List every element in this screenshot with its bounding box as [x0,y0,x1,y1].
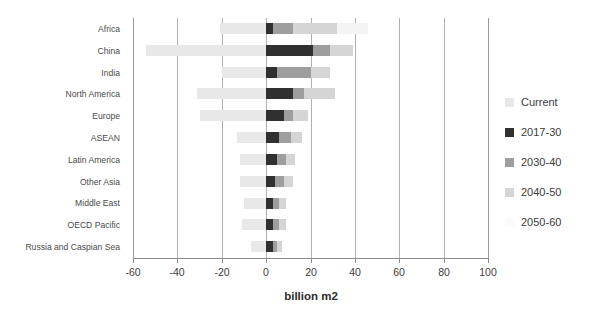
bar-segment [266,132,279,143]
bar-row [133,18,488,40]
bar-segment [237,132,266,143]
bar-segment [279,219,286,230]
bar-row [133,62,488,84]
bar-row [133,149,488,171]
bar-segment [244,198,266,209]
bar-segment [240,176,267,187]
y-axis-label-india: India [101,67,120,79]
x-tick-40 [355,258,356,263]
bar-segment [330,45,352,56]
bar-segment [220,23,267,34]
bar-segment [293,88,304,99]
bar-row [133,171,488,193]
y-axis-label-china: China [98,45,120,57]
y-axis-label-asean: ASEAN [91,132,120,144]
legend-label: 2040-50 [521,186,561,198]
y-axis-label-latin-america: Latin America [68,154,120,166]
bar-segment [286,154,295,165]
gridline-100 [488,18,489,258]
x-tick-label--60: -60 [113,266,153,278]
bar-segment [293,110,309,121]
bar-segment [279,132,290,143]
bar-segment [277,67,310,78]
bar-segment [293,23,337,34]
bar-row [133,127,488,149]
y-axis-label-north-america: North America [66,88,120,100]
bar-segment [337,23,368,34]
bar-segment [266,88,293,99]
x-tick--40 [177,258,178,263]
bar-segment [266,23,273,34]
x-tick-label-100: 100 [468,266,508,278]
bar-row [133,105,488,127]
bar-segment [146,45,266,56]
chart-legend: Current2017-302030-402040-502050-60 [505,95,601,245]
bar-row [133,193,488,215]
bar-chart: AfricaChinaIndiaNorth AmericaEuropeASEAN… [0,0,606,324]
bar-row [133,214,488,236]
x-tick-60 [399,258,400,263]
bar-segment [200,110,267,121]
legend-swatch-icon [505,128,514,137]
y-axis-label-middle-east: Middle East [75,197,120,209]
x-tick-80 [444,258,445,263]
bar-segment [275,176,284,187]
x-tick--20 [222,258,223,263]
legend-label: 2050-60 [521,216,561,228]
legend-item-2017-30[interactable]: 2017-30 [505,125,561,139]
bar-row [133,40,488,62]
y-axis-label-other-asia: Other Asia [80,176,120,188]
bar-segment [284,110,293,121]
bar-segment [266,241,273,252]
legend-swatch-icon [505,188,514,197]
x-tick-label-0: 0 [246,266,286,278]
bar-row [133,236,488,258]
y-axis-category-labels: AfricaChinaIndiaNorth AmericaEuropeASEAN… [0,18,126,258]
y-axis-label-oecd-pacific: OECD Pacific [67,219,120,231]
bar-segment [266,198,273,209]
bar-segment [240,154,267,165]
bar-segment [222,67,266,78]
legend-label: Current [521,96,558,108]
legend-item-2050-60[interactable]: 2050-60 [505,215,561,229]
x-tick-20 [311,258,312,263]
bar-segment [266,110,284,121]
x-tick-label-40: 40 [335,266,375,278]
bar-segment [291,132,302,143]
bar-segment [277,241,281,252]
legend-label: 2017-30 [521,126,561,138]
x-tick-label--20: -20 [202,266,242,278]
bar-segment [311,67,331,78]
y-axis-label-africa: Africa [98,23,120,35]
y-axis-label-russia-and-caspian-sea: Russia and Caspian Sea [25,241,120,253]
legend-item-2040-50[interactable]: 2040-50 [505,185,561,199]
legend-swatch-icon [505,218,514,227]
bar-segment [242,219,266,230]
bar-segment [266,154,277,165]
legend-swatch-icon [505,98,514,107]
legend-swatch-icon [505,158,514,167]
bar-segment [266,45,313,56]
bar-segment [197,88,266,99]
plot-area [133,18,488,258]
bar-segment [277,154,286,165]
x-tick-0 [266,258,267,263]
x-tick-label-20: 20 [291,266,331,278]
bar-segment [279,198,286,209]
y-axis-label-europe: Europe [92,110,120,122]
bar-segment [266,176,275,187]
bar-segment [273,23,293,34]
bar-segment [304,88,335,99]
bar-row [133,83,488,105]
bar-segment [266,67,277,78]
x-axis-title: billion m2 [133,290,489,302]
x-tick--60 [133,258,134,263]
x-tick-label-60: 60 [379,266,419,278]
x-tick-label-80: 80 [424,266,464,278]
bar-segment [251,241,267,252]
bar-segment [313,45,331,56]
x-tick-label--40: -40 [157,266,197,278]
legend-item-2030-40[interactable]: 2030-40 [505,155,561,169]
legend-item-current[interactable]: Current [505,95,558,109]
bar-segment [266,219,273,230]
